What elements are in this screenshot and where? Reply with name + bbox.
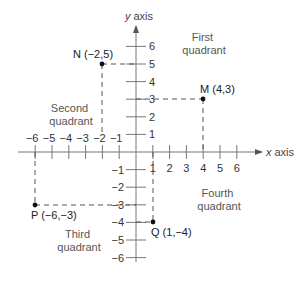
third-quadrant-label: Third quadrant bbox=[57, 228, 100, 253]
x-ticks: −6−5−4−3−2−1123456 bbox=[26, 132, 240, 174]
x-tick-label: −1 bbox=[110, 132, 123, 144]
y-tick-label: −1 bbox=[111, 164, 124, 176]
y-tick-label: 5 bbox=[149, 58, 155, 70]
y-tick-label: 2 bbox=[149, 111, 155, 123]
x-tick-label: −2 bbox=[93, 132, 106, 144]
x-tick-label: −4 bbox=[60, 132, 73, 144]
point-q bbox=[151, 220, 156, 225]
y-tick-label: 6 bbox=[149, 40, 155, 52]
point-m bbox=[201, 97, 206, 102]
y-tick-label: −4 bbox=[111, 216, 124, 228]
x-tick-label: −3 bbox=[76, 132, 89, 144]
point-q-label: Q (1,−4) bbox=[151, 226, 192, 238]
y-tick-label: 1 bbox=[149, 128, 155, 140]
y-tick-label: −2 bbox=[111, 181, 124, 193]
x-tick-label: 4 bbox=[200, 162, 206, 174]
x-tick-label: 5 bbox=[217, 162, 223, 174]
point-m-label: M (4,3) bbox=[200, 83, 235, 95]
point-p bbox=[33, 203, 38, 208]
x-tick-label: −6 bbox=[26, 132, 39, 144]
point-n bbox=[100, 62, 105, 67]
second-quadrant-label: Second quadrant bbox=[49, 102, 92, 127]
x-tick-label: 3 bbox=[183, 162, 189, 174]
x-tick-label: −5 bbox=[43, 132, 56, 144]
y-axis-title: yaxis bbox=[124, 10, 154, 22]
y-tick-label: −6 bbox=[111, 252, 124, 264]
x-axis-title: xaxis bbox=[265, 146, 295, 158]
x-tick-label: 6 bbox=[234, 162, 240, 174]
y-tick-label: 4 bbox=[149, 76, 155, 88]
coordinate-plane: −6−5−4−3−2−1123456 654321−1−2−3−4−5−6 xa… bbox=[0, 0, 306, 288]
point-p-label: P (−6,−3) bbox=[31, 209, 77, 221]
y-tick-label: −5 bbox=[111, 234, 124, 246]
fourth-quadrant-label: Fourth quadrant bbox=[197, 187, 240, 212]
x-tick-label: 2 bbox=[167, 162, 173, 174]
point-n-label: N (−2,5) bbox=[73, 48, 113, 60]
first-quadrant-label: First quadrant bbox=[182, 31, 225, 56]
